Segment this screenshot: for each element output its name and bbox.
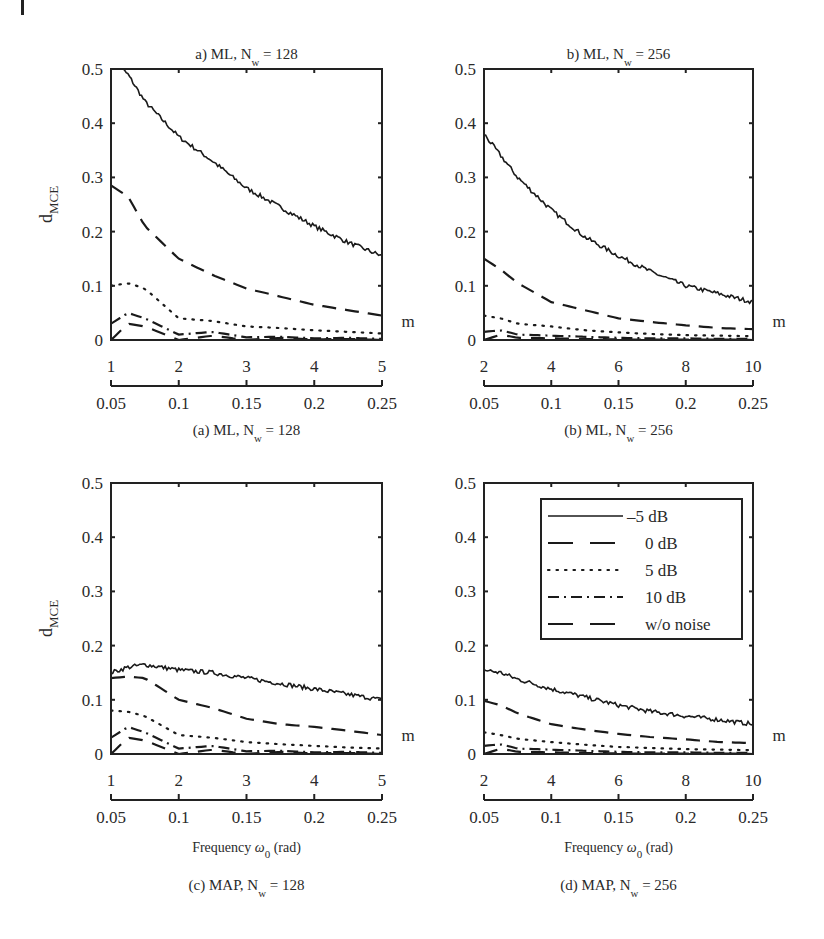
- series-group: [484, 670, 753, 754]
- y-axis-label: dMCE: [36, 600, 61, 637]
- frequency-tick-label: 0.2: [675, 808, 696, 827]
- m-tick-label: 1: [107, 771, 116, 790]
- panel-c: 00.10.20.30.40.5m123450.050.10.150.20.25…: [36, 474, 415, 899]
- y-tick-label: 0.5: [455, 474, 476, 493]
- y-tick-label: 0.4: [455, 528, 477, 547]
- m-axis-label: m: [772, 726, 785, 745]
- m-tick-label: 5: [378, 771, 387, 790]
- m-tick-label: 5: [378, 357, 387, 376]
- y-tick-label: 0.2: [82, 223, 103, 242]
- y-tick-label: 0.1: [82, 277, 103, 296]
- y-tick-label: 0.1: [455, 691, 476, 710]
- y-tick-label: 0.3: [82, 168, 103, 187]
- legend: –5 dB0 dB5 dB10 dBw/o noise: [541, 499, 742, 639]
- m-tick-label: 4: [310, 771, 319, 790]
- y-tick-label: 0.1: [82, 691, 103, 710]
- series-dashed: [111, 186, 382, 316]
- m-tick-label: 2: [175, 357, 184, 376]
- frequency-tick-label: 0.05: [469, 394, 499, 413]
- y-tick-label: 0.5: [455, 60, 476, 79]
- frequency-tick-label: 0.05: [96, 808, 126, 827]
- m-tick-label: 1: [107, 357, 116, 376]
- m-axis-label: m: [401, 726, 414, 745]
- axes-box: [111, 483, 382, 754]
- y-tick-label: 0.3: [82, 582, 103, 601]
- m-tick-label: 3: [242, 771, 251, 790]
- y-tick-label: 0.4: [82, 114, 104, 133]
- m-tick-label: 10: [745, 357, 762, 376]
- frequency-tick-label: 0.2: [304, 394, 325, 413]
- m-tick-label: 6: [614, 771, 623, 790]
- frequency-tick-label: 0.25: [738, 394, 768, 413]
- frequency-tick-label: 0.15: [604, 394, 634, 413]
- frequency-tick-label: 0.1: [541, 394, 562, 413]
- series-dashed: [484, 259, 753, 330]
- y-tick-label: 0.1: [455, 277, 476, 296]
- legend-label: 10 dB: [645, 588, 686, 607]
- series-group: [111, 58, 382, 340]
- m-tick-label: 4: [310, 357, 319, 376]
- m-tick-label: 4: [547, 771, 556, 790]
- frequency-tick-label: 0.25: [738, 808, 768, 827]
- y-axis-label: dMCE: [36, 186, 61, 223]
- y-tick-label: 0: [468, 745, 477, 764]
- y-tick-label: 0.5: [82, 474, 103, 493]
- series-dotted: [111, 284, 382, 334]
- series-solid: [484, 670, 753, 726]
- x-axis-label: Frequency ω0 (rad): [192, 840, 301, 860]
- panel-b: b) ML, Nw = 25600.10.20.30.40.5m2468100.…: [455, 46, 786, 444]
- panel-caption: (d) MAP, Nw = 256: [560, 877, 677, 899]
- m-tick-label: 6: [614, 357, 623, 376]
- m-tick-label: 3: [242, 357, 251, 376]
- y-tick-label: 0: [95, 745, 104, 764]
- series-solid: [111, 58, 382, 255]
- frequency-tick-label: 0.1: [541, 808, 562, 827]
- y-tick-label: 0.2: [455, 637, 476, 656]
- m-axis-label: m: [401, 312, 414, 331]
- m-tick-label: 8: [682, 771, 691, 790]
- y-tick-label: 0.4: [455, 114, 477, 133]
- panel-d: 00.10.20.30.40.5m2468100.050.10.150.20.2…: [455, 474, 786, 899]
- legend-label: w/o noise: [645, 615, 711, 634]
- frequency-tick-label: 0.1: [168, 808, 189, 827]
- figure-canvas: a) ML, Nw = 12800.10.20.30.40.5m123450.0…: [0, 0, 824, 939]
- y-tick-label: 0.2: [82, 637, 103, 656]
- y-tick-label: 0: [95, 331, 104, 350]
- y-tick-label: 0.3: [455, 582, 476, 601]
- y-tick-label: 0.2: [455, 223, 476, 242]
- y-tick-label: 0.3: [455, 168, 476, 187]
- legend-label: 0 dB: [645, 534, 678, 553]
- frequency-tick-label: 0.25: [367, 808, 397, 827]
- series-group: [484, 135, 753, 340]
- panel-title: a) ML, Nw = 128: [195, 46, 298, 68]
- series-dashdot: [111, 727, 382, 753]
- panel-title: b) ML, Nw = 256: [567, 46, 671, 68]
- m-tick-label: 2: [480, 357, 489, 376]
- panel-caption: (a) ML, Nw = 128: [193, 422, 301, 444]
- legend-label: –5 dB: [626, 507, 668, 526]
- m-tick-label: 8: [682, 357, 691, 376]
- m-tick-label: 2: [175, 771, 184, 790]
- frequency-tick-label: 0.1: [168, 394, 189, 413]
- series-dashdot: [111, 313, 382, 339]
- axes-box: [484, 69, 753, 340]
- panel-a: a) ML, Nw = 12800.10.20.30.40.5m123450.0…: [36, 46, 415, 444]
- frequency-tick-label: 0.2: [304, 808, 325, 827]
- frequency-tick-label: 0.25: [367, 394, 397, 413]
- frequency-tick-label: 0.15: [232, 394, 262, 413]
- y-tick-label: 0.4: [82, 528, 104, 547]
- frequency-tick-label: 0.15: [232, 808, 262, 827]
- m-tick-label: 10: [745, 771, 762, 790]
- frequency-tick-label: 0.05: [469, 808, 499, 827]
- y-tick-label: 0: [468, 331, 477, 350]
- panel-caption: (c) MAP, Nw = 128: [189, 877, 305, 899]
- axes-box: [111, 69, 382, 340]
- m-tick-label: 2: [480, 771, 489, 790]
- series-group: [111, 664, 382, 754]
- y-tick-label: 0.5: [82, 60, 103, 79]
- x-axis-label: Frequency ω0 (rad): [564, 840, 673, 860]
- series-dashed: [111, 677, 382, 735]
- frequency-tick-label: 0.2: [675, 394, 696, 413]
- series-solid: [484, 135, 753, 303]
- m-tick-label: 4: [547, 357, 556, 376]
